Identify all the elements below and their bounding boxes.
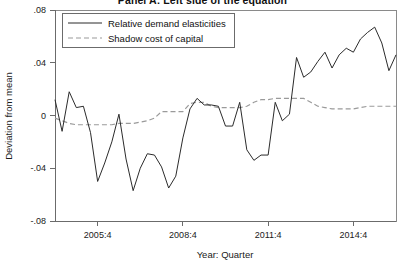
figure-panel-a: Panel A: Left side of the equation .08.0… xyxy=(0,0,405,264)
y-axis-ticks: .08.040-.04-.08 xyxy=(30,5,55,226)
y-tick-label: .04 xyxy=(33,58,46,68)
y-axis-title: Deviation from mean xyxy=(3,72,14,160)
y-tick-label: -.08 xyxy=(30,216,46,226)
y-tick-label: .08 xyxy=(33,5,46,15)
x-tick-label: 2005:4 xyxy=(84,230,112,240)
legend-label-relative-demand-elasticities: Relative demand elasticities xyxy=(108,18,226,29)
x-axis-title: Year: Quarter xyxy=(197,249,254,260)
chart-canvas: .08.040-.04-.08 2005:42008:42011:42014:4… xyxy=(0,0,405,264)
y-tick-label: 0 xyxy=(41,111,46,121)
x-tick-label: 2014:4 xyxy=(340,230,368,240)
series-line-relative-demand-elasticities xyxy=(55,27,396,191)
legend-label-shadow-cost-of-capital: Shadow cost of capital xyxy=(108,33,203,44)
x-tick-label: 2011:4 xyxy=(255,230,282,240)
x-tick-label: 2008:4 xyxy=(169,230,197,240)
y-tick-label: -.04 xyxy=(30,163,46,173)
figure-title: Panel A: Left side of the equation xyxy=(0,0,405,6)
x-axis-ticks: 2005:42008:42011:42014:4 xyxy=(84,221,367,240)
chart-legend: Relative demand elasticities Shadow cost… xyxy=(62,13,234,47)
series-line-shadow-cost-of-capital xyxy=(55,98,396,124)
